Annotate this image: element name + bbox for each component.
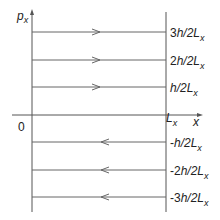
level-line-neg3 (32, 194, 166, 200)
level-line-2 (32, 57, 166, 63)
level-label: -2h/2Lx (170, 164, 209, 181)
level-label: 3h/2Lx (170, 26, 205, 43)
level-label: 2h/2Lx (170, 54, 205, 71)
level-label: -3h/2Lx (170, 191, 209, 208)
level-line-3 (32, 29, 166, 35)
y-axis-label: px (16, 9, 29, 25)
y-axis-arrow-icon (30, 9, 34, 15)
level-label: -h/2Lx (170, 136, 202, 153)
level-label: h/2Lx (170, 81, 198, 98)
level-line-neg1 (32, 139, 166, 145)
level-line-neg2 (32, 167, 166, 173)
lx-label: Lx (166, 111, 178, 128)
x-axis-label: x (192, 115, 200, 129)
level-line-1 (32, 84, 166, 90)
phase-space-diagram: px 0 Lx x 3h/2Lx 2h/2Lx h/2Lx -h/2Lx -2h… (0, 0, 220, 220)
origin-label: 0 (18, 120, 25, 134)
